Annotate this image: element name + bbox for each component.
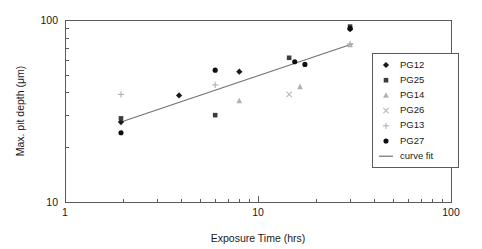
point-pg27 <box>292 59 297 64</box>
series-pg12 <box>118 26 353 125</box>
x-axis-label: Exposure Time (hrs) <box>211 232 306 244</box>
point-pg26 <box>286 92 291 97</box>
y-axis-label: Max. pit depth (μm) <box>14 66 26 157</box>
series-pg25 <box>119 24 353 120</box>
point-pg27 <box>348 26 353 31</box>
legend-label-pg13: PG13 <box>400 119 424 130</box>
point-pg14 <box>297 84 303 90</box>
legend-label-pg14: PG14 <box>400 89 424 100</box>
point-pg12 <box>176 92 182 98</box>
x-tick-label: 1 <box>62 206 68 218</box>
legend-marker-pg25 <box>384 78 389 83</box>
legend-label-pg25: PG25 <box>400 74 424 85</box>
fit-line <box>121 44 353 122</box>
point-pg13 <box>118 91 124 97</box>
y-tick-label: 10 <box>46 196 58 208</box>
legend-label-curve-fit: curve fit <box>400 150 434 161</box>
data-points <box>118 24 353 135</box>
legend-marker-pg27 <box>383 138 388 143</box>
series-pg14 <box>236 42 353 103</box>
legend-label-pg26: PG26 <box>400 104 424 115</box>
point-pg14 <box>236 98 242 104</box>
series-pg27 <box>118 26 352 136</box>
point-pg27 <box>213 68 218 73</box>
legend: PG12PG25PG14PG26PG13PG27curve fit <box>373 54 459 168</box>
point-pg27 <box>302 62 307 67</box>
point-pg25 <box>119 116 124 121</box>
x-tick-label: 100 <box>442 206 460 218</box>
y-tick-label: 100 <box>40 14 58 26</box>
chart-figure: 11010010100 Exposure Time (hrs) Max. pit… <box>0 0 482 249</box>
series-pg26 <box>286 92 291 97</box>
point-pg12 <box>236 69 242 75</box>
x-axis-ticks <box>66 196 452 202</box>
legend-label-pg12: PG12 <box>400 59 424 70</box>
point-pg25 <box>213 113 218 118</box>
series-pg13 <box>118 41 353 98</box>
legend-label-pg27: PG27 <box>400 135 424 146</box>
point-pg27 <box>118 130 123 135</box>
scatter-plot: 11010010100 Exposure Time (hrs) Max. pit… <box>0 0 482 249</box>
x-tick-label: 10 <box>252 206 264 218</box>
point-pg13 <box>212 82 218 88</box>
curve-fit-line <box>121 44 353 122</box>
point-pg25 <box>287 55 292 60</box>
